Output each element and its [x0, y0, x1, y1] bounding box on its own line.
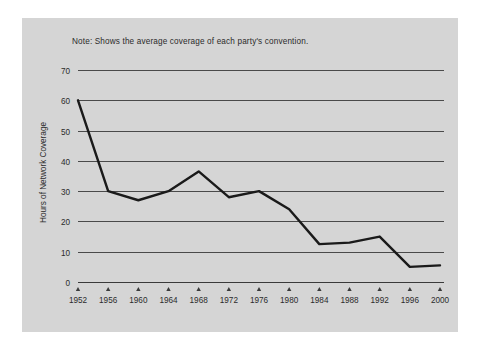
x-tick-mark-1952	[76, 287, 80, 291]
y-tick-label-30: 30	[61, 188, 71, 197]
x-tick-mark-1984	[317, 287, 321, 291]
data-line-series-hours	[78, 100, 440, 267]
x-tick-label-1964: 1964	[159, 296, 178, 305]
x-tick-label-1988: 1988	[340, 296, 359, 305]
y-tick-label-40: 40	[61, 158, 71, 167]
plot-area: 010203040506070 195219561960196419681972…	[22, 18, 458, 332]
y-tick-label-0: 0	[65, 279, 70, 288]
gridlines	[78, 71, 444, 283]
y-tick-label-50: 50	[61, 128, 71, 137]
x-tick-mark-1988	[347, 287, 351, 291]
x-tick-label-1976: 1976	[250, 296, 269, 305]
y-tick-label-20: 20	[61, 218, 71, 227]
y-tick-label-70: 70	[61, 67, 71, 76]
x-tick-label-1984: 1984	[310, 296, 329, 305]
x-axis-tick-labels: 1952195619601964196819721976198019841988…	[69, 296, 450, 305]
x-tick-label-1996: 1996	[401, 296, 420, 305]
x-tick-mark-1968	[196, 287, 200, 291]
x-tick-mark-1960	[136, 287, 140, 291]
x-tick-mark-1976	[257, 287, 261, 291]
y-axis-tick-labels: 010203040506070	[61, 67, 71, 288]
x-tick-label-1968: 1968	[190, 296, 209, 305]
x-tick-label-1972: 1972	[220, 296, 239, 305]
x-tick-label-1952: 1952	[69, 296, 88, 305]
x-tick-mark-1996	[408, 287, 412, 291]
y-tick-label-10: 10	[61, 249, 71, 258]
x-tick-label-1956: 1956	[99, 296, 118, 305]
x-tick-label-1980: 1980	[280, 296, 299, 305]
x-tick-mark-1956	[106, 287, 110, 291]
x-tick-mark-1972	[227, 287, 231, 291]
x-axis-tick-marks	[76, 287, 442, 291]
figure-panel: Note: Shows the average coverage of each…	[22, 18, 458, 332]
x-tick-label-1992: 1992	[371, 296, 390, 305]
x-tick-mark-1992	[377, 287, 381, 291]
x-tick-mark-2000	[438, 287, 442, 291]
x-tick-label-2000: 2000	[431, 296, 450, 305]
x-tick-mark-1980	[287, 287, 291, 291]
x-tick-mark-1964	[166, 287, 170, 291]
x-tick-label-1960: 1960	[129, 296, 148, 305]
y-tick-label-60: 60	[61, 97, 71, 106]
chart-page: Note: Shows the average coverage of each…	[0, 0, 480, 349]
